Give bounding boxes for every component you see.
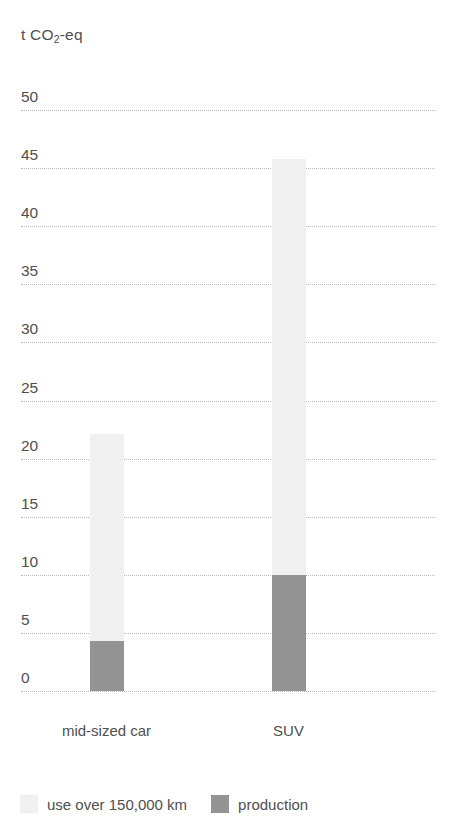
bar-segment-production-0[interactable] (90, 641, 124, 691)
y-axis-tick-label-15: 15 (21, 496, 38, 512)
bar-segment-use-1[interactable] (272, 159, 306, 575)
x-axis-category-label-0: mid-sized car (62, 722, 151, 739)
y-axis-tick-label-10: 10 (21, 554, 38, 570)
y-axis-tick-label-5: 5 (21, 612, 30, 628)
legend-label-use: use over 150,000 km (47, 796, 187, 813)
bar-segment-production-1[interactable] (272, 575, 306, 691)
gridline-50 (21, 110, 435, 111)
y-axis-tick-label-20: 20 (21, 438, 38, 454)
gridline-10 (21, 575, 435, 576)
y-axis-tick-label-0: 0 (21, 670, 30, 686)
plot-area: 05101520253035404550mid-sized carSUV (0, 0, 456, 826)
gridline-45 (21, 168, 435, 169)
gridline-40 (21, 226, 435, 227)
gridline-5 (21, 633, 435, 634)
x-axis-category-label-1: SUV (273, 722, 304, 739)
gridline-15 (21, 517, 435, 518)
y-axis-tick-label-50: 50 (21, 89, 38, 105)
gridline-0 (21, 691, 435, 692)
chart-legend: use over 150,000 km production (20, 795, 332, 813)
y-axis-tick-label-40: 40 (21, 205, 38, 221)
gridline-30 (21, 342, 435, 343)
legend-label-production: production (238, 796, 308, 813)
legend-item-use: use over 150,000 km (20, 795, 187, 813)
legend-swatch-production-icon (211, 795, 229, 813)
y-axis-tick-label-35: 35 (21, 263, 38, 279)
bar-group-1[interactable] (272, 0, 306, 691)
gridline-25 (21, 401, 435, 402)
gridline-35 (21, 284, 435, 285)
bar-group-0[interactable] (90, 0, 124, 691)
y-axis-tick-label-45: 45 (21, 147, 38, 163)
emissions-bar-chart: t CO2-eq 05101520253035404550mid-sized c… (0, 0, 456, 826)
y-axis-tick-label-30: 30 (21, 321, 38, 337)
legend-swatch-use-icon (20, 795, 38, 813)
y-axis-tick-label-25: 25 (21, 380, 38, 396)
gridline-20 (21, 459, 435, 460)
bar-segment-use-0[interactable] (90, 434, 124, 641)
legend-item-production: production (211, 795, 308, 813)
